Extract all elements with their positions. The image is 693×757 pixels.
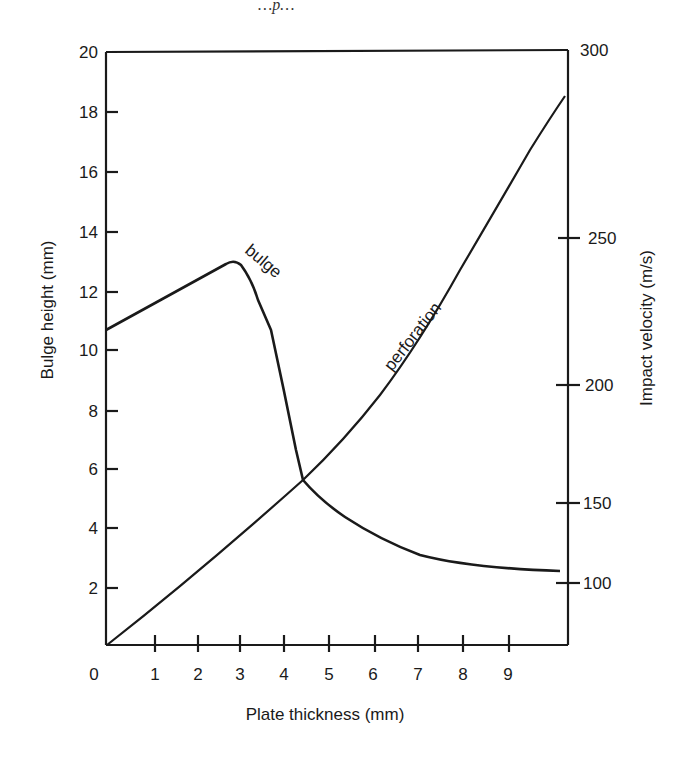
svg-text:8: 8 <box>458 665 467 684</box>
left-ticks <box>106 112 118 588</box>
y2-axis-title: Impact velocity (m/s) <box>637 250 656 406</box>
svg-text:250: 250 <box>588 229 616 248</box>
top-border <box>106 50 568 52</box>
svg-text:10: 10 <box>79 341 98 360</box>
svg-text:6: 6 <box>368 665 377 684</box>
perforation-curve <box>107 96 565 645</box>
bottom-ticks <box>155 635 509 652</box>
x-axis-title: Plate thickness (mm) <box>246 705 405 724</box>
right-tick-labels: 100 150 200 250 300 <box>580 41 616 593</box>
svg-text:20: 20 <box>79 43 98 62</box>
plot-frame <box>106 50 568 645</box>
svg-text:150: 150 <box>583 494 611 513</box>
left-tick-labels: 2 4 6 8 10 12 14 16 18 20 <box>79 43 98 598</box>
perforation-label: perforation <box>380 299 445 375</box>
svg-text:4: 4 <box>89 519 98 538</box>
svg-text:3: 3 <box>235 665 244 684</box>
svg-text:5: 5 <box>324 665 333 684</box>
svg-text:0: 0 <box>89 665 98 684</box>
y-axis-title: Bulge height (mm) <box>38 241 57 380</box>
caption-fragment: …p… <box>258 0 294 14</box>
svg-text:6: 6 <box>89 460 98 479</box>
svg-text:100: 100 <box>583 574 611 593</box>
svg-text:18: 18 <box>79 103 98 122</box>
svg-text:8: 8 <box>89 402 98 421</box>
svg-text:7: 7 <box>413 665 422 684</box>
svg-text:2: 2 <box>89 579 98 598</box>
svg-text:200: 200 <box>585 376 613 395</box>
svg-text:12: 12 <box>79 283 98 302</box>
bottom-tick-labels: 0 1 2 3 4 5 6 7 8 9 <box>89 665 512 684</box>
chart-canvas: …p… 2 4 6 8 10 12 14 16 18 20 <box>0 0 693 757</box>
svg-text:300: 300 <box>580 41 608 60</box>
svg-text:9: 9 <box>503 665 512 684</box>
svg-text:14: 14 <box>79 223 98 242</box>
svg-text:2: 2 <box>193 665 202 684</box>
svg-text:1: 1 <box>150 665 159 684</box>
bulge-curve <box>106 262 560 571</box>
svg-text:4: 4 <box>279 665 288 684</box>
svg-text:16: 16 <box>79 163 98 182</box>
